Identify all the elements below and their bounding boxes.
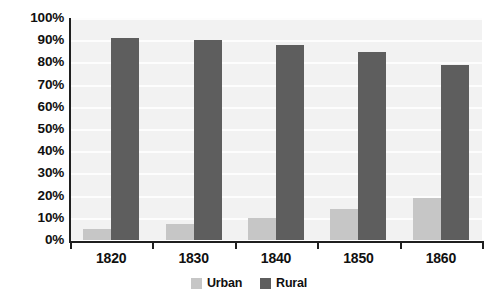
bars-layer xyxy=(70,18,482,240)
x-tick-label: 1830 xyxy=(152,250,234,270)
y-tick-label: 50% xyxy=(0,122,64,136)
y-tick-label: 10% xyxy=(0,211,64,225)
legend-swatch-icon xyxy=(191,278,202,289)
x-axis-labels: 18201830184018501860 xyxy=(70,250,482,270)
y-axis-line xyxy=(69,18,71,242)
bar-rural-1860 xyxy=(441,65,469,240)
bar-rural-1820 xyxy=(111,38,139,240)
y-tick-label: 100% xyxy=(0,11,64,25)
legend-label: Rural xyxy=(276,276,307,290)
x-axis-tick xyxy=(317,241,319,249)
x-axis-tick xyxy=(152,241,154,249)
legend-swatch-icon xyxy=(260,278,271,289)
bar-rural-1850 xyxy=(358,52,386,240)
y-tick-label: 80% xyxy=(0,55,64,69)
y-tick-label: 40% xyxy=(0,144,64,158)
y-axis: 100%90%80%70%60%50%40%30%20%10%0% xyxy=(0,0,68,250)
x-tick-label: 1850 xyxy=(317,250,399,270)
x-tick-label: 1860 xyxy=(400,250,482,270)
bar-chart: 100%90%80%70%60%50%40%30%20%10%0% 182018… xyxy=(0,0,498,297)
legend-label: Urban xyxy=(207,276,242,290)
y-tick-label: 70% xyxy=(0,78,64,92)
bar-group xyxy=(235,18,317,240)
x-axis-tick xyxy=(235,241,237,249)
legend-entry-rural: Rural xyxy=(260,276,307,290)
bar-rural-1840 xyxy=(276,45,304,240)
y-tick-label: 60% xyxy=(0,100,64,114)
bar-group xyxy=(317,18,399,240)
x-axis-tick xyxy=(482,241,484,249)
plot-area xyxy=(70,18,482,240)
x-tick-label: 1840 xyxy=(235,250,317,270)
y-tick-label: 0% xyxy=(0,233,64,247)
x-tick-label: 1820 xyxy=(70,250,152,270)
bar-group xyxy=(70,18,152,240)
x-axis-tick xyxy=(70,241,72,249)
bar-group xyxy=(152,18,234,240)
y-tick-label: 20% xyxy=(0,189,64,203)
bar-urban-1860 xyxy=(413,198,441,240)
y-tick-label: 30% xyxy=(0,166,64,180)
bar-urban-1850 xyxy=(330,209,358,240)
x-axis-tick xyxy=(400,241,402,249)
chart-legend: UrbanRural xyxy=(0,272,498,294)
bar-urban-1840 xyxy=(248,218,276,240)
legend-entry-urban: Urban xyxy=(191,276,242,290)
bar-rural-1830 xyxy=(194,40,222,240)
bar-urban-1820 xyxy=(83,229,111,240)
bar-group xyxy=(400,18,482,240)
bar-urban-1830 xyxy=(166,224,194,240)
x-axis-line xyxy=(69,241,483,243)
y-tick-label: 90% xyxy=(0,33,64,47)
